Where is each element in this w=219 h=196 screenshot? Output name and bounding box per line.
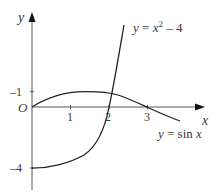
sine-label: y = sin x xyxy=(156,126,202,141)
x-tick-label-2: 2 xyxy=(105,110,111,124)
x-tick-label-3: 3 xyxy=(144,110,150,124)
parabola-label: y = x2 – 4 xyxy=(131,19,183,35)
x-axis-arrow-icon xyxy=(195,104,205,111)
y-tick-label-minus4: –4 xyxy=(9,161,22,175)
graph-diagram: y x O 1 2 3 –1 –4 y = x2 – 4 y = sin x xyxy=(0,0,219,196)
y-axis-arrow-icon xyxy=(29,12,36,22)
x-axis-label: x xyxy=(201,113,209,128)
y-axis-label: y xyxy=(16,10,25,25)
parabola-curve xyxy=(32,25,124,168)
y-tick-label-1: –1 xyxy=(9,85,22,99)
origin-label: O xyxy=(18,100,28,115)
x-tick-label-1: 1 xyxy=(67,110,73,124)
